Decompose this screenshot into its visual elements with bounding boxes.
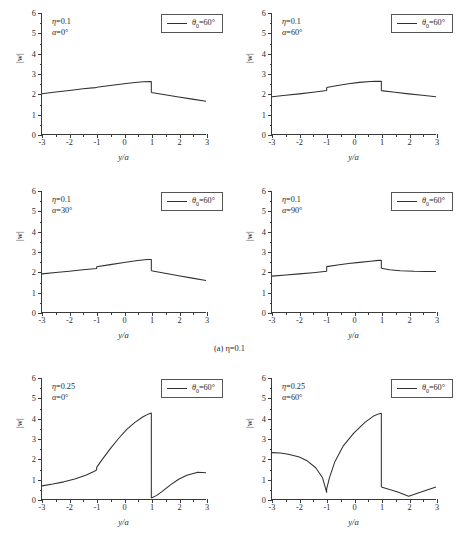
y-axis-tick-label: 3 [262,248,266,257]
x-axis-tick-label: -3 [269,138,276,147]
x-axis-minor-tick [396,499,397,502]
y-axis-tick-label: 1 [262,110,266,119]
x-axis-tick-label: 1 [150,316,154,325]
alpha-label: α=30° [52,205,72,216]
x-axis-minor-tick [138,134,139,137]
x-axis-minor-tick [111,499,112,502]
legend-box: θ0=60° [391,192,453,211]
x-axis-tick-label: 1 [380,316,384,325]
y-axis-tick-label: 0 [32,496,36,505]
x-axis-minor-tick [83,312,84,315]
y-axis-tick-label: 6 [262,187,266,196]
x-axis-tick-label: 1 [150,138,154,147]
y-axis-tick-label: 5 [32,29,36,38]
alpha-label: α=0° [52,392,75,403]
x-axis-minor-tick [286,499,287,502]
x-axis-tick-label: -3 [269,503,276,512]
x-axis-tick-label: 0 [352,316,356,325]
legend-box: θ0=60° [161,14,223,33]
panel-parameter-annotation: η=0.25α=0° [52,381,75,403]
x-axis-tick-label: 2 [177,316,181,325]
x-axis-tick-label: -2 [66,138,73,147]
y-axis-tick-label: 5 [262,394,266,403]
y-axis-tick-label: 6 [262,9,266,18]
x-axis-tick-label: 0 [352,138,356,147]
x-axis-tick-label: -2 [296,316,303,325]
x-axis-tick-label: 3 [435,138,439,147]
x-axis-title: y/a [271,152,436,162]
y-axis-tick-label: 0 [32,309,36,318]
y-axis-tick-label: 6 [262,374,266,383]
legend-line-swatch [397,388,417,389]
x-axis-minor-tick [313,312,314,315]
x-axis-tick-label: 0 [122,316,126,325]
y-axis-tick-label: 1 [32,475,36,484]
panel-eta0.1-alpha60: 0123456-3-2-10123η=0.1α=60°θ0=60°y/a|w| [230,0,459,175]
panel-parameter-annotation: η=0.1α=90° [282,194,302,216]
legend-line-swatch [397,201,417,202]
x-axis-minor-tick [286,134,287,137]
x-axis-tick-label: -3 [39,316,46,325]
x-axis-minor-tick [341,499,342,502]
y-axis-tick-label: 3 [262,435,266,444]
y-axis-tick-label: 0 [32,131,36,140]
panel-parameter-annotation: η=0.25α=60° [282,381,305,403]
y-axis-tick-label: 3 [262,70,266,79]
x-axis-minor-tick [313,499,314,502]
x-axis-minor-tick [56,312,57,315]
x-axis-tick-label: 3 [205,138,209,147]
x-axis-minor-tick [56,499,57,502]
x-axis-tick-label: -2 [296,138,303,147]
x-axis-minor-tick [166,134,167,137]
eta-label: η=0.25 [52,381,75,392]
eta-label: η=0.1 [52,16,71,27]
y-axis-tick-label: 3 [32,248,36,257]
x-axis-minor-tick [111,312,112,315]
y-axis-tick-label: 2 [262,455,266,464]
alpha-label: α=60° [282,392,305,403]
legend-line-swatch [397,23,417,24]
x-axis-tick-label: 2 [407,138,411,147]
y-axis-tick-label: 5 [32,207,36,216]
alpha-label: α=60° [282,27,302,38]
y-axis-tick-label: 4 [262,414,266,423]
x-axis-tick-label: -1 [324,316,331,325]
legend-box: θ0=60° [391,14,453,33]
eta-label: η=0.1 [52,194,72,205]
y-axis-tick-label: 4 [32,414,36,423]
x-axis-minor-tick [368,134,369,137]
y-axis-tick-label: 6 [32,9,36,18]
x-axis-minor-tick [423,312,424,315]
x-axis-minor-tick [368,499,369,502]
x-axis-minor-tick [368,312,369,315]
x-axis-minor-tick [396,134,397,137]
x-axis-minor-tick [341,312,342,315]
x-axis-tick-label: 1 [150,503,154,512]
y-axis-tick-label: 3 [32,435,36,444]
legend-label: θ0=60° [192,383,215,394]
x-axis-title: y/a [271,330,436,340]
x-axis-title: y/a [41,330,206,340]
y-axis-tick-label: 3 [32,70,36,79]
x-axis-tick-label: 3 [435,316,439,325]
y-axis-tick-label: 5 [32,394,36,403]
eta-label: η=0.1 [282,194,302,205]
y-axis-tick-label: 2 [32,268,36,277]
y-axis-title: |w| [14,53,24,63]
panel-eta0.25-alpha0: 0123456-3-2-10123η=0.25α=0°θ0=60°y/a|w| [0,365,229,540]
panel-parameter-annotation: η=0.1α=60° [282,16,302,38]
y-axis-tick-label: 1 [32,110,36,119]
x-axis-minor-tick [83,134,84,137]
y-axis-tick-label: 2 [32,455,36,464]
x-axis-title: y/a [271,517,436,527]
x-axis-tick-label: 2 [177,138,181,147]
y-axis-title: |w| [14,418,24,428]
panel-eta0.1-alpha90: 0123456-3-2-10123η=0.1α=90°θ0=60°y/a|w| [230,178,459,353]
x-axis-minor-tick [56,134,57,137]
x-axis-tick-label: -3 [269,316,276,325]
x-axis-tick-label: -1 [324,138,331,147]
y-axis-tick-label: 0 [262,309,266,318]
eta-label: η=0.1 [282,16,302,27]
x-axis-minor-tick [286,312,287,315]
x-axis-minor-tick [193,312,194,315]
